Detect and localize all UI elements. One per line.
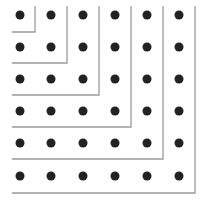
gnomon-line-1 [12,6,35,32]
gnomon-line-6 [12,6,195,193]
dot [16,172,25,181]
nested-squares-dot-diagram [0,0,204,207]
dot [111,172,120,181]
dot [175,139,184,148]
dot [111,75,120,84]
dot [16,139,25,148]
dot [47,43,56,52]
dot [79,43,88,52]
dot [47,172,56,181]
dot [175,11,184,20]
dot [175,107,184,116]
dot [111,139,120,148]
dot [79,172,88,181]
dot [143,11,152,20]
dot [111,107,120,116]
dot [111,43,120,52]
dot [16,11,25,20]
dot [175,172,184,181]
dot [79,139,88,148]
dot [47,139,56,148]
gnomon-lines [12,6,195,193]
dot [175,43,184,52]
dot [143,43,152,52]
dot [47,11,56,20]
dot [143,139,152,148]
dot [79,75,88,84]
dot [79,11,88,20]
dot [143,107,152,116]
dot [143,75,152,84]
dot [16,43,25,52]
dot [143,172,152,181]
dot [79,107,88,116]
dot [47,107,56,116]
dot [175,75,184,84]
dot [111,11,120,20]
dot [16,107,25,116]
dot [16,75,25,84]
dot [47,75,56,84]
